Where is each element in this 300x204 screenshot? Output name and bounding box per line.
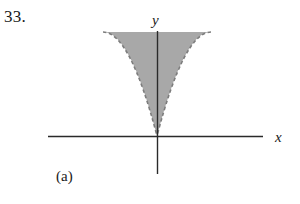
figure-page: 33. y x (a) bbox=[0, 0, 300, 204]
subfigure-label: (a) bbox=[56, 169, 73, 184]
y-axis-label: y bbox=[150, 12, 159, 28]
x-axis-label: x bbox=[274, 129, 282, 145]
graph-figure: y x bbox=[0, 0, 300, 204]
